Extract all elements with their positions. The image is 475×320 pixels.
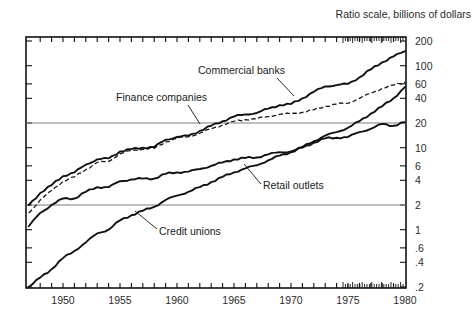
x-tick-label: 1955 xyxy=(108,294,132,306)
leader-credit-unions xyxy=(135,211,157,229)
y-tick-label: 4 xyxy=(415,174,421,186)
series-line-finance-companies xyxy=(29,82,405,213)
y-tick-label: 2 xyxy=(415,199,421,211)
x-tick-label: 1980 xyxy=(393,294,417,306)
y-tick-label: 6 xyxy=(415,160,421,172)
y-tick-label: 60 xyxy=(415,78,427,90)
x-axis-tick-labels: 1950195519601965197019751980 xyxy=(51,294,417,306)
x-tick-label: 1960 xyxy=(165,294,189,306)
chart-figure: Ratio scale, billions of dollars 2001006… xyxy=(0,0,475,320)
y-tick-label: .4 xyxy=(415,256,424,268)
y-tick-label: 1 xyxy=(415,224,421,236)
series-label-commercial-banks: Commercial banks xyxy=(198,64,285,76)
x-tick-label: 1975 xyxy=(336,294,360,306)
y-tick-label: 100 xyxy=(415,60,433,72)
y-tick-label: 40 xyxy=(415,92,427,104)
leader-commercial-banks xyxy=(277,78,294,96)
chart-title: Ratio scale, billions of dollars xyxy=(336,8,471,20)
x-tick-label: 1965 xyxy=(222,294,246,306)
leader-finance-companies xyxy=(188,105,200,124)
consumer-credit-log-chart: Ratio scale, billions of dollars 2001006… xyxy=(0,0,475,320)
series-line-credit-unions xyxy=(29,87,405,287)
y-tick-label: .6 xyxy=(415,242,424,254)
series-label-retail-outlets: Retail outlets xyxy=(263,179,324,191)
y-tick-label: .2 xyxy=(415,281,424,293)
y-axis-tick-labels: 200100604020106421.6.4.2 xyxy=(415,35,433,293)
series-label-finance-companies: Finance companies xyxy=(116,91,207,103)
series-line-retail-outlets xyxy=(29,122,405,226)
y-tick-label: 200 xyxy=(415,35,433,47)
series-label-credit-unions: Credit unions xyxy=(159,225,221,237)
leader-retail-outlets xyxy=(244,164,261,184)
y-tick-label: 10 xyxy=(415,142,427,154)
series-curves xyxy=(29,51,405,287)
y-tick-label: 20 xyxy=(415,117,427,129)
x-tick-label: 1950 xyxy=(51,294,75,306)
x-tick-label: 1970 xyxy=(279,294,303,306)
